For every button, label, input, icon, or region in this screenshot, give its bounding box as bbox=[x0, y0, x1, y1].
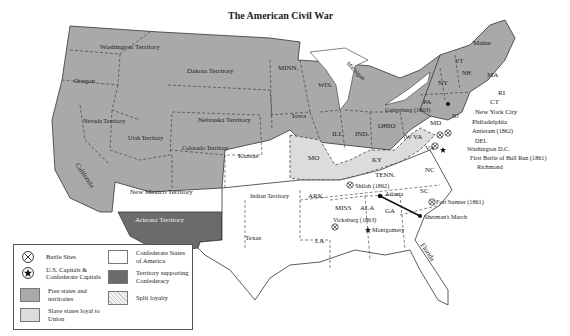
label-oregon: Oregon bbox=[74, 77, 95, 85]
label-mo: MO bbox=[308, 154, 319, 162]
split-loyalty-swatch bbox=[108, 291, 128, 305]
label-richmond: Richmond bbox=[477, 163, 504, 170]
label-utah: Utah Territory bbox=[128, 134, 164, 141]
label-texas: Texas bbox=[245, 234, 262, 242]
label-wis: WIS. bbox=[318, 81, 333, 89]
label-nyc: New York City bbox=[475, 108, 518, 116]
label-shermans-march: Sherman's March bbox=[424, 213, 468, 220]
label-maine: Maine bbox=[473, 39, 491, 47]
slave-loyal-swatch bbox=[20, 308, 40, 322]
legend-item-slave-loyal: Slave states loyal to Union bbox=[20, 307, 106, 322]
label-sc: SC bbox=[420, 187, 429, 195]
label-ky: KY bbox=[372, 156, 382, 164]
label-new-mexico: New Mexico Territory bbox=[130, 188, 193, 196]
label-nj: NJ bbox=[452, 112, 459, 119]
legend-item-free: Free states and territories bbox=[20, 287, 106, 302]
confederate-swatch bbox=[108, 250, 128, 264]
label-ill: ILL. bbox=[332, 130, 345, 138]
label-vt: VT bbox=[455, 57, 463, 64]
label-pa: PA bbox=[423, 98, 431, 106]
legend-item-territory-confederacy: Territory supporting Confederacy bbox=[108, 269, 190, 284]
label-tenn: TENN. bbox=[375, 171, 396, 179]
legend-item-battle-sites: Battle Sites bbox=[20, 249, 76, 265]
label-ark: ARK. bbox=[308, 192, 325, 200]
label-miss: MISS bbox=[335, 204, 351, 212]
label-nh: NH bbox=[462, 69, 471, 76]
label-wva: W VA bbox=[405, 133, 422, 141]
label-fort-sumter: Fort Sumter (1861) bbox=[436, 198, 484, 206]
label-washington-dc: Washington D.C. bbox=[467, 145, 510, 152]
label-kansas: Kansas bbox=[238, 152, 258, 160]
label-iowa: Iowa bbox=[292, 112, 307, 120]
label-ga: GA bbox=[385, 207, 395, 215]
label-nebraska: Nebraska Territory bbox=[198, 116, 251, 124]
territory-confederacy-swatch bbox=[108, 270, 128, 284]
legend-item-capitals: U.S. Capitals & Confederate Capitals bbox=[20, 265, 110, 281]
label-nc: NC bbox=[425, 166, 435, 174]
label-md: MD bbox=[430, 119, 441, 127]
legend-item-split: Split loyalty bbox=[108, 291, 190, 305]
legend-item-confederate: Confederate States of America bbox=[108, 249, 190, 264]
label-ri: RI bbox=[498, 89, 506, 97]
label-ct: CT bbox=[490, 98, 500, 106]
label-va: VA bbox=[425, 144, 434, 152]
free-states-swatch bbox=[20, 288, 40, 302]
label-antietam: Antietam (1862) bbox=[472, 127, 513, 135]
label-ma: MA bbox=[487, 71, 498, 79]
label-philadelphia: Philadelphia bbox=[472, 118, 508, 126]
label-minn: MINN. bbox=[278, 64, 299, 72]
label-nevada: Nevada Territory bbox=[83, 117, 126, 124]
label-ohio: OHIO bbox=[378, 122, 396, 130]
map-legend: Battle Sites U.S. Capitals & Confederate… bbox=[13, 244, 193, 330]
label-dakota: Dakota Territory bbox=[187, 67, 234, 75]
label-montgomery: Montgomery bbox=[372, 226, 405, 233]
label-gettysburg: Gettysburg (1863) bbox=[385, 106, 430, 114]
label-colorado: Colorado Territory bbox=[182, 144, 229, 151]
label-del: DEL bbox=[475, 137, 487, 144]
label-la: LA bbox=[315, 237, 324, 245]
label-arizona: Arizona Territory bbox=[135, 216, 184, 224]
label-shiloh: Shiloh (1862) bbox=[355, 182, 389, 190]
label-washington: Washington Territory bbox=[100, 43, 160, 51]
label-ind: IND. bbox=[355, 130, 369, 138]
label-ny: NY bbox=[438, 79, 448, 87]
label-indian: Indian Territory bbox=[250, 192, 290, 199]
label-vicksburg: Vicksburg (1863) bbox=[333, 216, 376, 224]
label-bull-run: First Battle of Bull Run (1861) bbox=[470, 154, 546, 162]
label-atlanta: Atlanta bbox=[385, 190, 403, 197]
battle-site-icon bbox=[20, 249, 36, 265]
capital-star-icon bbox=[20, 265, 36, 281]
label-ala: ALA bbox=[360, 204, 374, 212]
